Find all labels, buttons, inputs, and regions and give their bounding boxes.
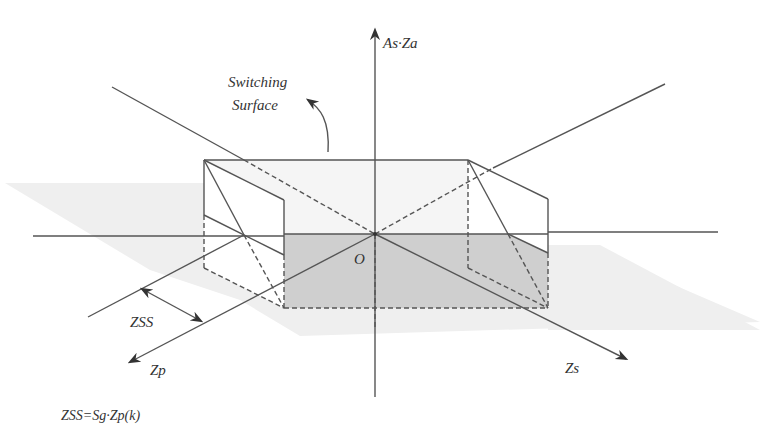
switching-surface-label-line2: Surface — [232, 97, 278, 113]
diagonal-upper-left — [112, 87, 244, 160]
diagonal-upper-right — [493, 84, 665, 168]
ground-plane-right — [548, 245, 760, 330]
zs-axis-label: Zs — [565, 360, 579, 376]
origin-label: O — [354, 251, 365, 267]
zss-label: ZSS — [130, 314, 154, 330]
switching-surface-diagram: As·Za Switching Surface O ZSS Zp Zs ZSS=… — [0, 0, 760, 447]
zp-axis-label: Zp — [150, 362, 166, 378]
switching-surface-label-line1: Switching — [228, 74, 288, 90]
formula: ZSS=Sg·Zp(k) — [61, 408, 140, 424]
dark-region — [284, 234, 548, 308]
vertical-axis-label: As·Za — [382, 35, 418, 51]
switching-surface-pointer — [308, 100, 328, 152]
origin-point — [373, 232, 377, 236]
